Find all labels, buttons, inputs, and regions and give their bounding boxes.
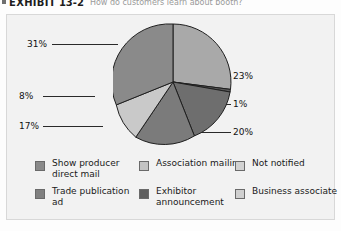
pie-label-23: 23%	[233, 71, 253, 81]
leader-line-8	[43, 96, 95, 97]
pie-label-17: 17%	[19, 121, 39, 131]
legend-swatch-icon	[35, 161, 45, 171]
legend-item-exhibitor-announcement: Exhibitor announcement	[139, 187, 235, 215]
pie-graphic	[113, 19, 233, 145]
exhibit-title-bar: EXHIBIT13-2How do customers learn about …	[0, 0, 341, 9]
legend-label: Trade publication ad	[52, 186, 140, 208]
pie-label-8: 8%	[19, 91, 33, 101]
legend-item-business-associate: Business associate	[235, 187, 331, 215]
legend-label: Business associate	[252, 186, 340, 197]
legend-label: Not notified	[252, 158, 340, 169]
legend-item-not-notified: Not notified	[235, 159, 331, 187]
legend-swatch-icon	[139, 189, 149, 199]
exhibit-number: 13-2	[59, 0, 84, 8]
legend-row: Show producer direct mail Association ma…	[7, 159, 336, 187]
leader-line-17	[43, 126, 103, 127]
legend-swatch-icon	[235, 189, 245, 199]
legend-label: Show producer direct mail	[52, 158, 140, 180]
legend-item-show-producer-direct-mail: Show producer direct mail	[35, 159, 139, 187]
legend-item-association-mailing: Association mailing	[139, 159, 235, 187]
legend-label: Association mailing	[156, 158, 244, 169]
pie-label-1: 1%	[233, 99, 247, 109]
pie-label-31: 31%	[27, 39, 47, 49]
legend-swatch-icon	[139, 161, 149, 171]
legend-label: Exhibitor announcement	[156, 186, 244, 208]
legend-swatch-icon	[35, 189, 45, 199]
legend-swatch-icon	[235, 161, 245, 171]
legend-item-trade-publication-ad: Trade publication ad	[35, 187, 139, 215]
pie-label-20: 20%	[233, 127, 253, 137]
pie-slice-business-associate	[173, 24, 231, 89]
leader-line-31	[52, 44, 118, 45]
bullet-icon	[2, 0, 6, 4]
chart-panel: 31% 8% 17% 23% 1% 20% Show producer dire…	[6, 14, 335, 220]
chart-legend: Show producer direct mail Association ma…	[7, 155, 336, 219]
exhibit-subtitle: How do customers learn about booth?	[90, 0, 243, 8]
pie-chart-area: 31% 8% 17% 23% 1% 20%	[7, 15, 336, 155]
legend-row: Trade publication ad Exhibitor announcem…	[7, 187, 336, 215]
exhibit-figure: EXHIBIT13-2How do customers learn about …	[0, 0, 341, 231]
exhibit-label: EXHIBIT	[9, 0, 56, 8]
